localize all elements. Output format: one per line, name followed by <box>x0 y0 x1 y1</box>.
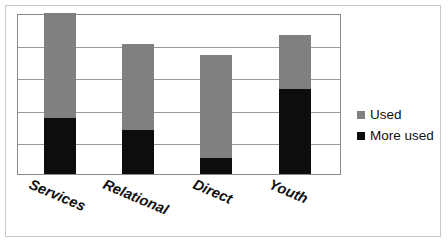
bar-segment-used[interactable] <box>44 13 76 118</box>
chart-legend: Used More used <box>357 106 439 148</box>
x-axis-label-youth: Youth <box>267 176 311 207</box>
x-axis-label-services: Services <box>27 176 88 214</box>
bar-segment-more-used[interactable] <box>200 158 232 174</box>
legend-label-used: Used <box>370 108 402 122</box>
bar-segment-more-used[interactable] <box>44 118 76 174</box>
chart-figure: Services Relational Direct Youth Used Mo… <box>5 5 441 237</box>
bar-segment-used[interactable] <box>200 55 232 158</box>
x-axis-label-relational: Relational <box>101 176 171 218</box>
legend-swatch-used-icon <box>357 111 365 119</box>
bar-segment-more-used[interactable] <box>122 130 154 174</box>
plot-area <box>17 14 341 175</box>
legend-item-more-used[interactable]: More used <box>357 127 439 145</box>
x-axis-label-direct: Direct <box>191 176 235 207</box>
legend-item-used[interactable]: Used <box>357 106 439 124</box>
x-axis-category-labels: Services Relational Direct Youth <box>17 176 341 236</box>
legend-swatch-more-used-icon <box>357 132 365 140</box>
legend-label-more-used: More used <box>370 129 434 143</box>
bar-segment-used[interactable] <box>122 44 154 130</box>
bar-segment-used[interactable] <box>279 35 311 89</box>
bar-segment-more-used[interactable] <box>279 89 311 174</box>
